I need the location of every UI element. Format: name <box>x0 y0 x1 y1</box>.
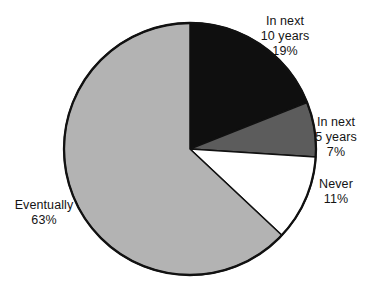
label-line-percent: 19% <box>235 44 335 59</box>
label-line-percent: 63% <box>2 213 86 228</box>
label-line: 10 years <box>235 29 335 44</box>
slice-label-never: Never 11% <box>294 177 369 207</box>
label-line: In next <box>235 14 335 29</box>
label-line-percent: 11% <box>294 192 369 207</box>
label-line: 5 years <box>294 130 369 145</box>
label-line-percent: 7% <box>294 145 369 160</box>
slice-label-in-next-10-years: In next 10 years 19% <box>235 14 335 59</box>
label-line: Eventually <box>2 198 86 213</box>
label-line: Never <box>294 177 369 192</box>
label-line: In next <box>294 115 369 130</box>
pie-chart-figure: In next 10 years 19% In next 5 years 7% … <box>0 0 369 296</box>
slice-label-eventually: Eventually 63% <box>2 198 86 228</box>
slice-label-in-next-5-years: In next 5 years 7% <box>294 115 369 160</box>
